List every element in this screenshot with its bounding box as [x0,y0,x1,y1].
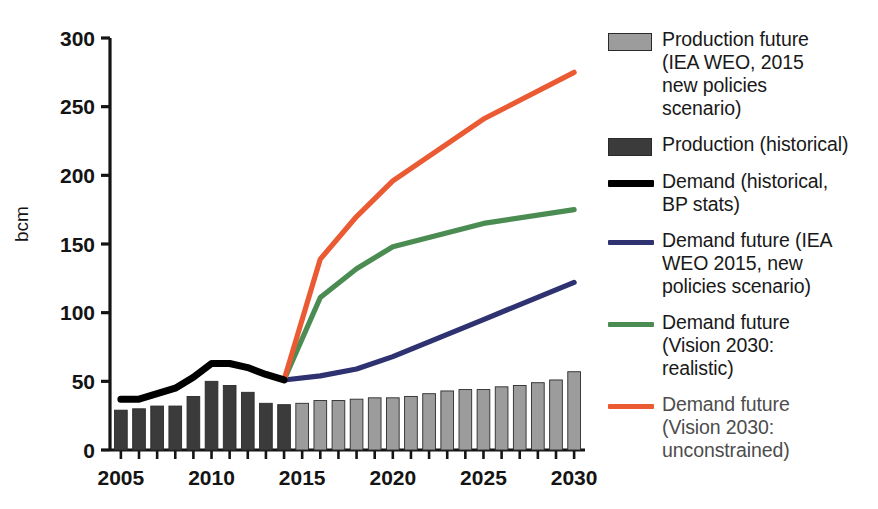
legend-item-demand-future-vision-unconstrained[interactable]: Demand future(Vision 2030:unconstrained) [608,393,878,462]
line-demand-future-vision-2030-realistic- [284,210,574,380]
legend-label-line: BP stats) [662,193,828,216]
legend-marker-icon [608,322,654,327]
x-tick-label: 2030 [551,466,598,489]
bar [133,409,146,450]
y-tick-label: 0 [83,439,95,462]
bar [151,406,164,450]
bar [205,381,218,450]
legend-label-demand-future-vision-realistic: Demand future(Vision 2030:realistic) [662,311,790,380]
x-tick-label: 2025 [460,466,507,489]
legend-marker-icon [608,404,654,409]
bar [550,380,563,450]
legend-label-line: Demand future [662,311,790,334]
line-demand-future-vision-2030-unconstrained- [284,72,574,380]
bar [459,390,472,450]
bar [314,401,327,450]
legend-label-line: Demand future (IEA [662,229,833,252]
y-tick-label: 250 [60,95,95,118]
legend-item-demand-historical[interactable]: Demand (historical,BP stats) [608,170,878,216]
x-tick-label: 2010 [188,466,235,489]
legend-marker-icon [608,180,654,187]
legend-label-demand-historical: Demand (historical,BP stats) [662,170,828,216]
y-tick-label: 300 [60,27,95,50]
y-tick-label: 50 [72,370,95,393]
x-tick-label: 2015 [279,466,326,489]
legend-swatch-demand-historical [608,170,662,194]
bar [441,391,454,450]
legend-label-demand-future-iea: Demand future (IEAWEO 2015, newpolicies … [662,229,833,298]
bar [368,398,381,450]
bar [278,405,291,450]
legend-swatch-demand-future-iea [608,229,662,253]
legend-label-production-historical: Production (historical) [662,133,848,156]
legend-label-line: Production (historical) [662,133,848,156]
bar [386,398,399,450]
legend-swatch-demand-future-vision-realistic [608,311,662,335]
legend-label-line: Demand (historical, [662,170,828,193]
y-tick-label: 200 [60,164,95,187]
legend-marker-icon [608,240,654,245]
bar [350,399,363,450]
bar [405,396,418,450]
legend-list: Production future(IEA WEO, 2015new polic… [608,28,878,475]
legend-item-demand-future-vision-realistic[interactable]: Demand future(Vision 2030:realistic) [608,311,878,380]
y-tick-label: 100 [60,301,95,324]
legend-label-line: realistic) [662,357,790,380]
legend-label-line: policies scenario) [662,275,833,298]
legend-label-line: scenario) [662,97,809,120]
bar [477,390,490,450]
chart-svg: 050100150200250300bcm2005201020152020202… [0,0,600,509]
bar [296,403,309,450]
bar [332,401,345,450]
bar [241,392,254,450]
legend-marker-icon [608,138,652,156]
bar [169,406,182,450]
chart-legend: Production future(IEA WEO, 2015new polic… [600,0,878,509]
legend-item-production-future[interactable]: Production future(IEA WEO, 2015new polic… [608,28,878,120]
legend-label-line: (IEA WEO, 2015 [662,51,809,74]
legend-label-line: Production future [662,28,809,51]
legend-item-demand-future-iea[interactable]: Demand future (IEAWEO 2015, newpolicies … [608,229,878,298]
bar-group-production-historical- [115,381,291,450]
legend-swatch-demand-future-vision-unconstrained [608,393,662,417]
x-tick-label: 2005 [98,466,145,489]
legend-swatch-production-future [608,28,662,52]
legend-label-line: Demand future [662,393,790,416]
legend-marker-icon [608,33,652,51]
bar [513,385,526,450]
legend-label-demand-future-vision-unconstrained: Demand future(Vision 2030:unconstrained) [662,393,790,462]
bar [187,396,200,450]
bar [568,372,581,450]
x-tick-label: 2020 [369,466,416,489]
bar [115,410,128,450]
legend-label-line: unconstrained) [662,439,790,462]
bar [495,387,508,450]
legend-item-production-historical[interactable]: Production (historical) [608,133,878,157]
bar [423,394,436,450]
legend-label-line: new policies [662,74,809,97]
figure-container: 050100150200250300bcm2005201020152020202… [0,0,878,509]
bar [532,383,545,450]
legend-label-production-future: Production future(IEA WEO, 2015new polic… [662,28,809,120]
bar [223,385,236,450]
legend-label-line: (Vision 2030: [662,334,790,357]
bar [260,403,273,450]
legend-label-line: (Vision 2030: [662,416,790,439]
chart-plot-area: 050100150200250300bcm2005201020152020202… [0,0,600,509]
legend-label-line: WEO 2015, new [662,252,833,275]
y-tick-label: 150 [60,233,95,256]
y-axis-title: bcm [11,206,32,242]
bar-group-production-future-iea-weo-2015-new-policies-scenario- [296,372,581,450]
line-demand-historical-bp-stats- [121,363,284,399]
legend-swatch-production-historical [608,133,662,157]
line-demand-future-iea-weo-2015-new-policies-scenario- [284,282,574,380]
